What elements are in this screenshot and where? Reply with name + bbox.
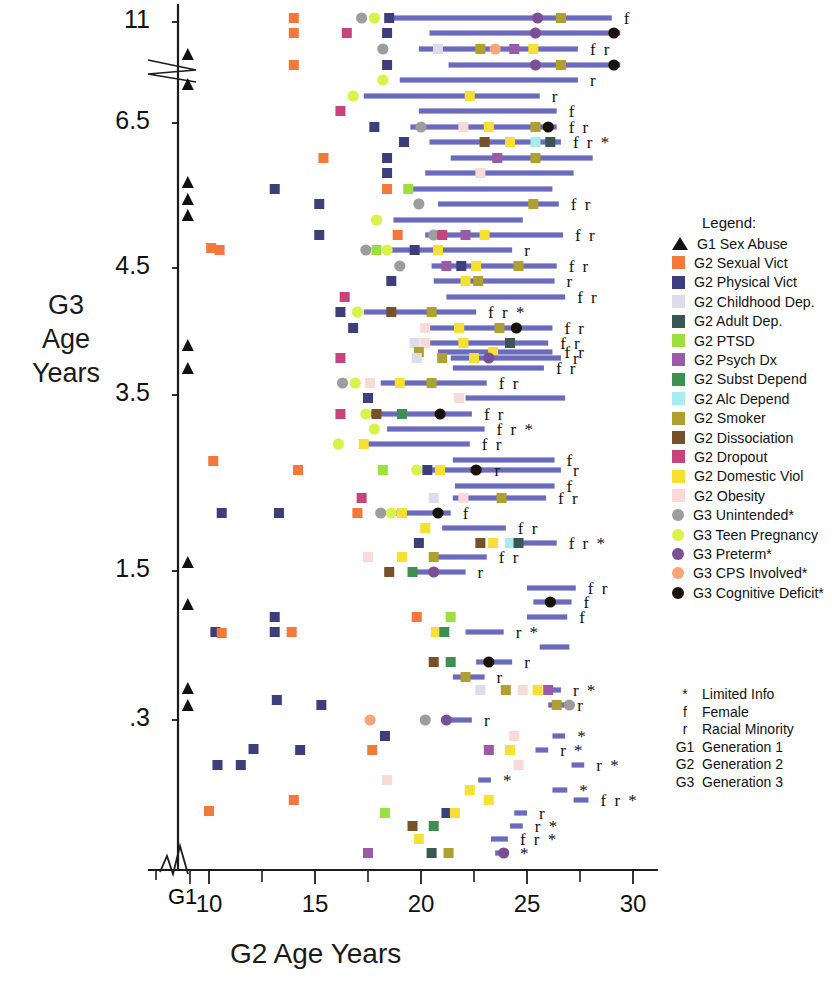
observation-bar [455, 483, 555, 488]
case-row [540, 644, 570, 649]
x-axis-title: G2 Age Years [230, 938, 401, 970]
observation-bar [383, 247, 512, 252]
observation-bar [540, 644, 570, 649]
legend-swatch-icon [672, 548, 684, 560]
marker-square [465, 785, 475, 795]
legend-note-key: G3 [668, 774, 702, 790]
marker-square [433, 44, 443, 54]
marker-square [528, 44, 538, 54]
case-row: r [365, 711, 492, 730]
row-flags: f r [575, 226, 597, 245]
legend-swatch-icon [672, 509, 684, 521]
legend-item: G3 Unintended* [660, 506, 794, 525]
marker-square [316, 700, 326, 710]
row-flags: r [552, 87, 560, 106]
marker-square [454, 323, 464, 333]
legend-item: G2 Dropout [660, 447, 767, 466]
legend-swatch-icon [672, 373, 685, 386]
marker-square [446, 657, 456, 667]
marker-square [480, 230, 490, 240]
case-row: f r [333, 435, 504, 454]
row-flags: r * [560, 741, 584, 760]
case-row [289, 27, 620, 38]
observation-bar [552, 733, 565, 738]
observation-bar [434, 278, 555, 283]
legend-note: G2Generation 2 [660, 756, 783, 773]
observation-bar [368, 441, 470, 446]
y-axis-title-line-0: G3 [6, 288, 126, 322]
legend-note: G1Generation 1 [660, 739, 783, 756]
marker-square [420, 523, 430, 533]
legend-item-label: G3 Teen Pregnancy [693, 527, 818, 543]
row-flags: f r [590, 40, 612, 59]
legend-item: G2 Subst Depend [660, 370, 807, 389]
observation-bar [572, 762, 585, 767]
marker-square [484, 745, 494, 755]
marker-square [458, 493, 468, 503]
marker-square [518, 685, 528, 695]
marker-square [458, 122, 468, 132]
legend-item: G2 Psych Dx [660, 350, 777, 369]
marker-circle [498, 847, 509, 858]
case-row: r * [295, 741, 584, 760]
marker-square [380, 731, 390, 741]
observation-bar [552, 787, 567, 792]
x-tick-label-2: 20 [391, 890, 451, 918]
legend-item-label: G2 Subst Depend [694, 371, 807, 387]
orphan-markers [204, 243, 282, 816]
legend-swatch-icon [672, 237, 688, 250]
marker-square [314, 230, 324, 240]
marker-circle [381, 244, 392, 255]
legend-item: G2 Sexual Vict [660, 253, 788, 272]
row-flags: r [590, 71, 598, 90]
observation-bar [438, 554, 487, 559]
marker-circle [348, 90, 359, 101]
y-tick-label-4: 1.5 [60, 554, 150, 583]
marker-square [441, 261, 451, 271]
legend-swatch-icon [672, 587, 684, 599]
observation-bar [393, 217, 522, 222]
marker-square [465, 91, 475, 101]
legend-item: G2 Smoker [660, 409, 766, 428]
marker-circle [428, 566, 439, 577]
marker-square [363, 393, 373, 403]
marker-square [382, 184, 392, 194]
marker-square [412, 353, 422, 363]
marker-square [287, 627, 297, 637]
legend-note-key: G2 [668, 756, 702, 772]
marker-square [289, 13, 299, 23]
marker-square [335, 106, 345, 116]
marker-square [340, 292, 350, 302]
marker-square [552, 700, 562, 710]
marker-g1-sex-abuse [182, 176, 194, 188]
marker-square [408, 821, 418, 831]
case-row: f r [369, 118, 590, 137]
y-tick-label-2: 4.5 [60, 251, 150, 280]
chart-canvas: ff rrrff rf r *f rf rrf rrf rf r *f rf r… [0, 0, 660, 982]
marker-circle [543, 121, 554, 132]
legend-item-label: G3 Unintended* [693, 507, 794, 523]
observation-bar [535, 747, 548, 752]
marker-square [497, 493, 507, 503]
row-flags: * [503, 771, 513, 790]
marker-square [208, 456, 218, 466]
case-row: f [289, 9, 632, 28]
legend-item: G2 Alc Depend [660, 389, 789, 408]
marker-square [444, 848, 454, 858]
marker-square [380, 808, 390, 818]
row-flags: f r [556, 359, 578, 378]
case-row [371, 214, 523, 225]
marker-square [357, 493, 367, 503]
case-row: f [453, 451, 574, 470]
legend-note-text: Limited Info [702, 686, 774, 702]
observation-bar [527, 614, 567, 619]
marker-square [289, 60, 299, 70]
row-flags: f r [518, 519, 540, 538]
marker-square [386, 307, 396, 317]
case-row: r [384, 563, 485, 582]
row-flags: r * [516, 623, 540, 642]
legend-swatch-icon [672, 529, 684, 541]
marker-square [335, 307, 345, 317]
legend-item: G1 Sex Abuse [660, 234, 788, 253]
marker-square [382, 60, 392, 70]
